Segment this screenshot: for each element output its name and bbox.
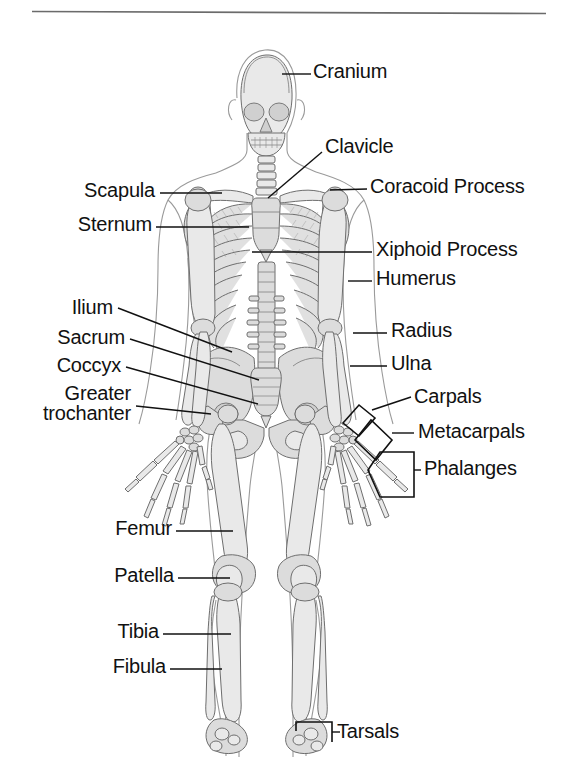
cervical-vertebrae bbox=[256, 156, 277, 195]
label-clavicle: Clavicle bbox=[325, 136, 393, 157]
label-femur: Femur bbox=[0, 518, 172, 539]
label-coracoid-process: Coracoid Process bbox=[370, 176, 525, 197]
label-cranium: Cranium bbox=[313, 61, 387, 82]
label-xiphoid-process: Xiphoid Process bbox=[376, 239, 518, 260]
tarsals-bones bbox=[206, 719, 327, 754]
label-tibia: Tibia bbox=[0, 621, 159, 642]
sternum-bone bbox=[252, 198, 281, 254]
label-tarsals: Tarsals bbox=[337, 721, 399, 742]
label-patella: Patella bbox=[0, 565, 174, 586]
label-ilium: Ilium bbox=[0, 297, 113, 318]
label-fibula: Fibula bbox=[0, 656, 166, 677]
top-divider-rule bbox=[32, 12, 546, 14]
label-humerus: Humerus bbox=[376, 268, 456, 289]
label-radius: Radius bbox=[391, 320, 452, 341]
label-greater-trochanter: Greater trochanter bbox=[0, 383, 131, 423]
label-phalanges: Phalanges bbox=[424, 458, 517, 479]
maxilla-and-mandible bbox=[248, 133, 285, 156]
vertebral-column bbox=[247, 262, 286, 370]
label-carpals: Carpals bbox=[414, 386, 482, 407]
skeleton-diagram: .bone { fill:#e9e9e9; stroke:#6e6e6e; st… bbox=[0, 0, 567, 759]
label-metacarpals: Metacarpals bbox=[418, 421, 525, 442]
label-coccyx: Coccyx bbox=[0, 355, 121, 376]
leader-coracoid-process bbox=[330, 189, 367, 190]
left-hand-bones bbox=[125, 426, 213, 526]
label-sternum: Sternum bbox=[0, 214, 152, 235]
label-scapula: Scapula bbox=[0, 180, 155, 201]
right-hand-bones bbox=[320, 426, 408, 526]
label-ulna: Ulna bbox=[391, 353, 431, 374]
label-sacrum: Sacrum bbox=[0, 327, 125, 348]
tibia-bone bbox=[214, 583, 319, 722]
